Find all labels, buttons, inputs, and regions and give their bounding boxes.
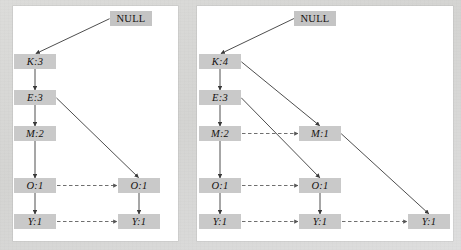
tree-node-null: NULL <box>110 11 152 26</box>
tree-node-y-1: Y:1 <box>299 214 341 229</box>
tree-node-m-2: M:2 <box>199 126 241 141</box>
tree-node-e-3: E:3 <box>199 90 241 105</box>
tree-node-y-1: Y:1 <box>14 214 56 229</box>
tree-node-m-1: M:1 <box>299 126 341 141</box>
tree-node-k-4: K:4 <box>199 54 241 69</box>
tree-node-o-1: O:1 <box>118 178 160 193</box>
tree-node-o-1: O:1 <box>299 178 341 193</box>
tree-node-null: NULL <box>294 11 336 26</box>
fp-tree-panel-right <box>197 6 453 241</box>
tree-node-k-3: K:3 <box>14 54 56 69</box>
tree-node-o-1: O:1 <box>14 178 56 193</box>
tree-node-y-1: Y:1 <box>199 214 241 229</box>
tree-node-o-1: O:1 <box>199 178 241 193</box>
tree-node-y-1: Y:1 <box>408 214 450 229</box>
tree-node-y-1: Y:1 <box>118 214 160 229</box>
tree-node-e-3: E:3 <box>14 90 56 105</box>
fp-tree-panel-left <box>13 6 178 241</box>
tree-node-m-2: M:2 <box>14 126 56 141</box>
